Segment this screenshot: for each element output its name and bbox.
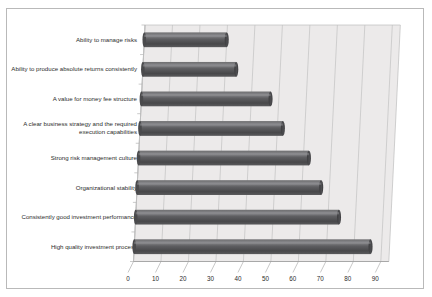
axis-tick-label: 70: [317, 275, 325, 282]
bar: [141, 62, 238, 77]
bar: [138, 121, 285, 136]
bar: [134, 210, 341, 225]
bar-chart-svg: 0102030405060708090: [7, 9, 425, 290]
chart-plot-area: Ability to manage risksAbility to produc…: [7, 9, 425, 290]
bar: [137, 151, 311, 166]
axis-tick-label: 0: [126, 275, 130, 282]
axis-tick-label: 20: [179, 275, 187, 282]
bar: [135, 180, 323, 195]
axis-tick-label: 60: [289, 275, 297, 282]
bar: [132, 239, 372, 254]
axis-tick-label: 80: [344, 275, 352, 282]
axis-tick-label: 40: [234, 275, 242, 282]
bar: [140, 92, 273, 107]
value-axis-ticks: 0102030405060708090: [126, 262, 389, 282]
axis-tick-label: 30: [207, 275, 215, 282]
axis-tick-label: 90: [372, 275, 380, 282]
axis-tick-label: 10: [152, 275, 160, 282]
axis-tick-label: 50: [262, 275, 270, 282]
bar: [142, 32, 228, 47]
chart-frame: Ability to manage risksAbility to produc…: [6, 8, 424, 289]
chart-floor: [134, 25, 401, 262]
